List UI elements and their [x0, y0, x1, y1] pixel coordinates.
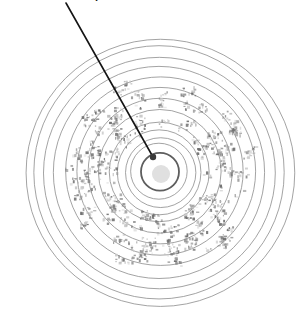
clipped-top-label: p [95, 0, 102, 1]
figure-root: p [0, 0, 300, 314]
concentric-ring-diagram [0, 0, 300, 314]
center-dot [152, 165, 170, 183]
pointer-tip-marker [150, 154, 156, 160]
